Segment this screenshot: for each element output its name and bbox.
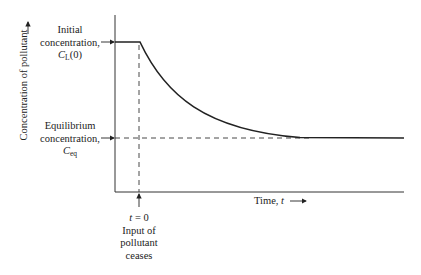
concentration-curve (115, 42, 404, 138)
x-axis-label-text: Time, (254, 195, 281, 206)
initial-line1: Initial (40, 24, 100, 37)
t-rest: = 0 (132, 212, 148, 223)
event-line2: pollutant (114, 237, 164, 250)
equilibrium-symbol-c: C (63, 145, 70, 156)
initial-line2: concentration, (40, 37, 100, 50)
initial-concentration-label: Initial concentration, CL(0) (40, 24, 100, 65)
equilibrium-symbol: Ceq (40, 145, 100, 161)
equilibrium-line1: Equilibrium (40, 120, 100, 133)
event-line3: ceases (114, 250, 164, 263)
initial-symbol: CL(0) (40, 49, 100, 65)
equilibrium-subscript: eq (70, 149, 77, 158)
equilibrium-line2: concentration, (40, 133, 100, 146)
y-axis-label: Concentration of pollutant (18, 30, 29, 141)
x-axis-label-var: t (281, 195, 284, 206)
t-equals-zero: t = 0 (114, 212, 164, 225)
event-line1: Input of (114, 225, 164, 238)
initial-suffix: (0) (70, 49, 82, 60)
x-axis-label: Time, t (254, 195, 284, 208)
equilibrium-concentration-label: Equilibrium concentration, Ceq (40, 120, 100, 161)
event-label: t = 0 Input of pollutant ceases (114, 212, 164, 262)
